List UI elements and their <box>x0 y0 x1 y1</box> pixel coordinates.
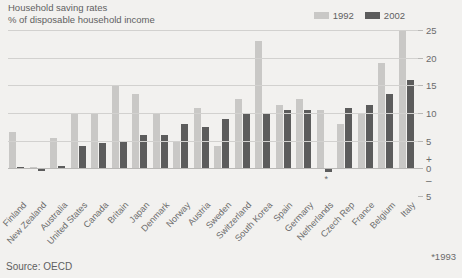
page-title: Household saving rates <box>8 2 155 14</box>
y-axis-tick: 5 <box>418 136 431 146</box>
tick-dash-icon <box>418 168 423 169</box>
tick-dash-icon <box>418 30 423 31</box>
tick-dash-icon <box>418 113 423 114</box>
bar-2002 <box>79 146 86 168</box>
tick-label: 10 <box>426 108 437 119</box>
chart-container: Household saving rates % of disposable h… <box>0 0 462 278</box>
bar-1992 <box>296 99 303 168</box>
bar-2002 <box>99 143 106 168</box>
legend-swatch-icon <box>314 12 329 19</box>
y-axis-tick: 5 <box>418 191 431 201</box>
bar-2002 <box>366 105 373 169</box>
bar-1992 <box>317 110 324 168</box>
x-axis-label: Britain <box>106 200 131 225</box>
plus-sign: + <box>426 155 432 165</box>
zero-axis-line <box>8 168 418 169</box>
minus-sign: – <box>426 176 432 186</box>
y-axis-tick: 25 <box>418 25 437 35</box>
legend-label: 1992 <box>333 11 354 20</box>
bar-1992 <box>194 108 201 169</box>
legend-swatch-icon <box>365 12 380 19</box>
bar-1992 <box>9 132 16 168</box>
plot-area: * <box>8 30 418 196</box>
bar-1992 <box>214 146 221 168</box>
tick-dash-icon <box>418 58 423 59</box>
bar-1992 <box>276 105 283 169</box>
x-axis-label: Italy <box>399 200 418 219</box>
bar-2002 <box>222 119 229 169</box>
bar-1992 <box>132 94 139 169</box>
bar-2002 <box>181 124 188 168</box>
tick-dash-icon <box>418 141 423 142</box>
gridline <box>8 85 418 86</box>
gridline <box>8 58 418 59</box>
bar-1992 <box>50 138 57 168</box>
tick-label: 5 <box>426 191 431 202</box>
gridline <box>8 141 418 142</box>
bar-2002 <box>345 108 352 169</box>
bar-1992 <box>112 85 119 168</box>
bar-2002 <box>407 80 414 169</box>
bar-2002 <box>304 110 311 168</box>
bar-1992 <box>378 63 385 168</box>
bar-2002 <box>284 110 291 168</box>
tick-dash-icon <box>418 85 423 86</box>
bar-2002 <box>386 94 393 169</box>
y-axis-tick: 15 <box>418 80 437 90</box>
chart-subtitle: % of disposable household income <box>8 14 155 26</box>
legend-label: 2002 <box>384 11 405 20</box>
tick-label: 15 <box>426 80 437 91</box>
tick-label: 5 <box>426 135 431 146</box>
bar-1992 <box>235 99 242 168</box>
y-axis-tick: 10 <box>418 108 437 118</box>
gridline <box>8 113 418 114</box>
bar-1992 <box>399 30 406 168</box>
bar-1992 <box>255 41 262 168</box>
legend-item-1992: 1992 <box>314 11 354 20</box>
legend-item-2002: 2002 <box>365 11 405 20</box>
y-axis: 25201510505+– <box>418 30 462 196</box>
tick-label: 20 <box>426 52 437 63</box>
footnote: *1993 <box>431 251 456 262</box>
chart-legend: 19922002 <box>314 11 405 20</box>
tick-dash-icon <box>418 196 423 197</box>
gridline <box>8 30 418 31</box>
x-axis-labels: FinlandNew ZealandAustraliaUnited States… <box>8 198 418 268</box>
tick-label: 25 <box>426 25 437 36</box>
bar-2002 <box>202 127 209 169</box>
bar-1992 <box>337 124 344 168</box>
title-block: Household saving rates % of disposable h… <box>8 2 155 26</box>
source-note: Source: OECD <box>6 261 72 272</box>
bar-2002 <box>120 141 127 169</box>
bar-1992 <box>173 141 180 169</box>
asterisk-annotation: * <box>325 175 329 184</box>
y-axis-tick: 20 <box>418 53 437 63</box>
